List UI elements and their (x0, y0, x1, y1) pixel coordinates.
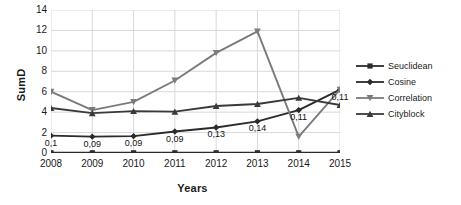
y-tick-label: 8 (21, 65, 47, 76)
series-canvas (51, 10, 340, 153)
data-point-label: 0,11 (290, 112, 307, 122)
data-point-label: 0,14 (249, 123, 267, 133)
x-tick-label: 2009 (70, 158, 114, 169)
legend-item-cityblock[interactable]: Cityblock (355, 106, 459, 122)
legend-key-icon (355, 92, 385, 104)
y-tick-label: 10 (21, 45, 47, 56)
plot-area (51, 10, 340, 153)
data-point-label: 0,1 (45, 138, 58, 148)
x-tick-label: 2008 (29, 158, 73, 169)
data-point-marker (295, 134, 302, 140)
y-tick-label: 4 (21, 106, 47, 117)
data-point-marker (214, 150, 219, 153)
series-seuclidean (51, 150, 340, 153)
data-point-marker (296, 150, 301, 153)
data-point-marker (51, 150, 54, 153)
data-point-marker (367, 79, 373, 85)
data-point-label: 0,11 (332, 92, 349, 102)
x-tick-label: 2012 (194, 158, 238, 169)
y-tick-label: 6 (21, 86, 47, 97)
data-point-label: 0,09 (84, 139, 102, 149)
y-tick-label: 14 (21, 4, 47, 15)
data-point-marker (255, 150, 260, 153)
legend-item-seuclidean[interactable]: Seuclidean (355, 58, 459, 74)
x-tick-label: 2015 (318, 158, 362, 169)
line-chart: SumD Years 02468101214 20082009201020112… (0, 0, 461, 205)
data-point-label: 0,13 (207, 129, 225, 139)
legend-label: Cityblock (388, 109, 425, 119)
legend-item-correlation[interactable]: Correlation (355, 90, 459, 106)
series-correlation (51, 28, 340, 139)
x-tick-label: 2011 (153, 158, 197, 169)
data-point-label: 0,09 (166, 134, 184, 144)
x-tick-label: 2013 (235, 158, 279, 169)
data-point-marker (90, 150, 95, 153)
legend-label: Cosine (388, 77, 416, 87)
x-tick-label: 2010 (112, 158, 156, 169)
x-axis-title: Years (40, 182, 345, 194)
data-point-marker (131, 150, 136, 153)
legend-label: Seuclidean (388, 61, 433, 71)
legend-item-cosine[interactable]: Cosine (355, 74, 459, 90)
y-tick-label: 2 (21, 127, 47, 138)
legend: SeuclideanCosineCorrelationCityblock (355, 58, 459, 122)
y-tick-label: 0 (21, 147, 47, 158)
legend-key-icon (355, 76, 385, 88)
data-point-marker (172, 150, 177, 153)
data-point-marker (367, 63, 372, 68)
legend-key-icon (355, 60, 385, 72)
data-point-marker (337, 150, 340, 153)
data-point-label: 0,09 (125, 138, 143, 148)
legend-key-icon (355, 108, 385, 120)
x-tick-label: 2014 (277, 158, 321, 169)
y-tick-label: 12 (21, 24, 47, 35)
legend-label: Correlation (388, 93, 432, 103)
